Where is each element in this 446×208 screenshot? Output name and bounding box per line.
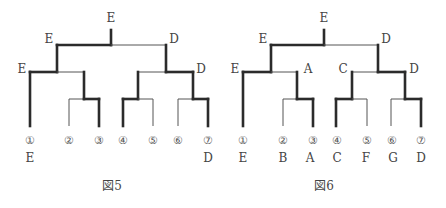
node-label-left: E [259,32,268,46]
node-label-root: E [107,11,116,25]
node-label-left-left: E [231,62,240,76]
leaf-number: ⑥ [173,134,183,147]
node-label-right: D [169,32,179,46]
leaf-number: ⑥ [387,134,397,147]
leaf-number: ② [278,134,288,147]
leaf-number: ⑤ [148,134,158,147]
leaf-number: ④ [118,134,128,147]
node-label-left-left: E [18,62,27,76]
leaf-number: ④ [332,134,342,147]
leaf-number: ① [238,134,248,147]
bracket-figure-6: E E D E A C D ① ② ③ ④ ⑤ ⑥ ⑦ E B A C F G … [231,11,426,193]
node-label-left: E [45,32,54,46]
figure-caption: 図6 [314,179,334,193]
node-label-right-right: D [196,62,206,76]
leaf-number: ① [25,134,35,147]
leaf-number: ⑦ [416,134,426,147]
leaf-letter: D [416,151,426,165]
node-label-right-right: D [409,62,419,76]
leaf-letter: A [305,151,315,165]
leaf-letter: B [279,151,288,165]
node-label-left-right: A [303,62,313,76]
leaf-letter: F [362,151,370,165]
node-label-right: D [381,32,391,46]
leaf-letter: E [239,151,248,165]
figure-caption: 図5 [102,179,122,193]
node-label-root: E [320,11,329,25]
leaf-number: ⑤ [362,134,372,147]
leaf-number: ⑦ [203,134,213,147]
leaf-number: ② [64,134,74,147]
leaf-letter: E [26,151,35,165]
bracket-figure-5: E E D E D ① ② ③ ④ ⑤ ⑥ ⑦ E D 図5 [18,11,213,193]
node-label-right-left: C [338,62,347,76]
leaf-letter: D [203,151,213,165]
leaf-number: ③ [94,134,104,147]
leaf-letter: G [388,151,398,165]
tournament-brackets: E E D E D ① ② ③ ④ ⑤ ⑥ ⑦ E D 図5 [0,0,446,208]
leaf-number: ③ [308,134,318,147]
leaf-letter: C [332,151,341,165]
